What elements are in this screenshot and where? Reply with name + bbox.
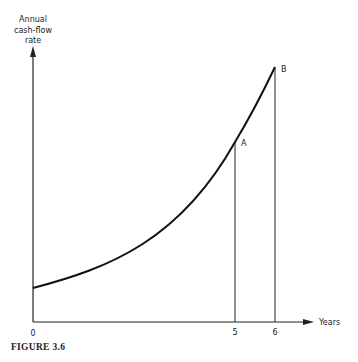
y-axis-label-line-1: Annual [19, 15, 47, 24]
point-label-a: A [241, 139, 247, 148]
cash-flow-curve [33, 67, 275, 288]
y-axis-label-line-2: cash-flow [14, 26, 52, 35]
x-tick-5: 5 [232, 328, 237, 337]
cash-flow-diagram: Annual cash-flow rate A B 0 5 6 Years FI… [0, 0, 358, 362]
y-axis-arrow-icon [30, 46, 36, 57]
origin-label: 0 [30, 329, 35, 338]
figure-caption: FIGURE 3.6 [11, 342, 65, 352]
x-axis-arrow-icon [303, 319, 314, 325]
y-axis-label-line-3: rate [25, 36, 41, 45]
point-label-b: B [281, 65, 287, 74]
x-axis-label: Years [318, 318, 340, 327]
x-tick-6: 6 [272, 328, 277, 337]
